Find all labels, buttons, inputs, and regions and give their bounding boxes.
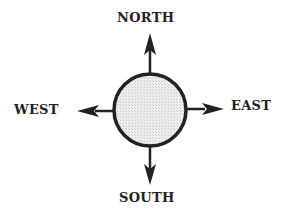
north-label: NORTH [117, 10, 174, 25]
east-label: EAST [231, 98, 271, 113]
north-arrow-icon [144, 33, 156, 74]
compass-diagram: NORTH SOUTH WEST EAST [0, 0, 285, 217]
center-circle [114, 74, 186, 146]
west-label: WEST [14, 102, 59, 117]
east-arrow-icon [187, 103, 224, 115]
south-label: SOUTH [119, 190, 175, 205]
west-arrow-icon [77, 105, 113, 117]
south-arrow-icon [144, 147, 156, 185]
